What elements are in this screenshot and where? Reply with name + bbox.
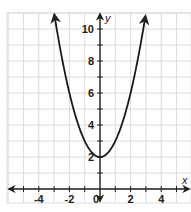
x-axis-label: x [181, 174, 188, 186]
y-tick-label: 10 [82, 23, 94, 35]
x-tick-label: -2 [65, 193, 75, 205]
x-tick-label: 2 [128, 193, 134, 205]
y-axis-label: y [104, 12, 112, 24]
grid-lines [7, 13, 191, 203]
y-tick-label: 6 [88, 87, 94, 99]
y-tick-label: 4 [88, 119, 95, 131]
y-tick-label: 8 [88, 55, 94, 67]
x-tick-label: 4 [158, 193, 165, 205]
x-tick-label: 0 [93, 193, 99, 205]
parabola-graph: -4-2024246810 x y [0, 0, 191, 212]
x-tick-label: -4 [34, 193, 45, 205]
